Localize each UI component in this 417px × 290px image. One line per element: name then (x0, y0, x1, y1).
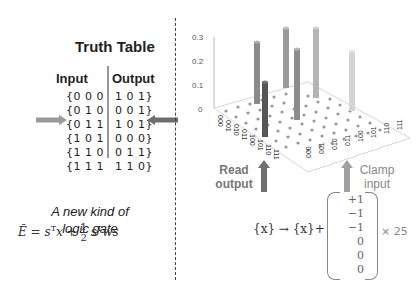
table-row: {1 0 1 0 0 0} (66, 132, 156, 146)
vector-entry: 0 (336, 235, 364, 249)
row-output: 0 1 1} (115, 146, 153, 159)
svg-text:0.2: 0.2 (192, 57, 204, 66)
clamp-vector: +1 −1 −1 0 0 0 (336, 193, 364, 277)
svg-text:110: 110 (383, 123, 390, 134)
input-arrow-icon (36, 115, 68, 125)
svg-text:010: 010 (331, 138, 338, 150)
row-output: 1 0 1} (115, 90, 153, 103)
svg-text:011: 011 (344, 135, 351, 146)
read-label-line-1: Read (212, 163, 256, 177)
svg-text:111: 111 (273, 149, 280, 160)
svg-text:101: 101 (257, 139, 264, 151)
panel-separator (175, 18, 176, 280)
clamp-update-equation: {x} → {x}+ (253, 222, 325, 236)
multiplier: × 25 (381, 225, 408, 238)
vector-entry: +1 (336, 193, 364, 207)
row-input: {0 1 0 (66, 104, 104, 117)
table-row: {1 1 0 0 1 1} (66, 146, 156, 160)
svg-text:101: 101 (370, 126, 377, 138)
svg-text:0: 0 (198, 105, 203, 114)
caption-line-1: A new kind of (40, 203, 140, 220)
svg-text:000: 000 (217, 115, 224, 127)
svg-text:001: 001 (225, 120, 232, 132)
vector-entry: −1 (336, 207, 364, 221)
clamp-input-label: Clamp input (354, 163, 400, 191)
row-input: {0 1 1 (66, 118, 104, 131)
svg-text:100: 100 (249, 134, 256, 146)
svg-text:100: 100 (357, 130, 364, 142)
table-row: {0 0 0 1 0 1} (66, 90, 156, 104)
row-output: 0 0 0} (115, 132, 153, 145)
output-arrow-icon (146, 115, 178, 125)
svg-text:011: 011 (241, 129, 248, 140)
svg-text:110: 110 (265, 144, 272, 155)
svg-text:010: 010 (233, 124, 240, 136)
energy-equation: Ẽ = sTx + 12 sTws (18, 222, 119, 243)
read-label-line-2: output (212, 177, 256, 191)
output-header: Output (112, 71, 155, 86)
row-input: {1 1 1 (66, 160, 104, 173)
row-input: {0 0 0 (66, 90, 104, 103)
row-input: {1 0 1 (66, 132, 104, 145)
clamp-label-line-2: input (354, 177, 400, 191)
svg-text:000: 000 (305, 146, 312, 158)
vector-entry: −1 (336, 221, 364, 235)
table-row: {1 1 1 1 1 0} (66, 160, 156, 174)
read-output-arrow-icon (258, 160, 270, 192)
svg-text:0.3: 0.3 (192, 33, 204, 42)
svg-text:0.1: 0.1 (192, 81, 204, 90)
svg-text:001: 001 (318, 142, 325, 154)
table-row-highlighted: {0 1 1 1 0 1} (66, 118, 156, 132)
table-row: {0 1 0 0 0 1} (66, 104, 156, 118)
probability-3d-bar-chart: 0.3 0.2 0.1 0 000 001 010 011 100 101 11… (178, 20, 417, 185)
row-input: {1 1 0 (66, 146, 104, 159)
svg-text:111: 111 (396, 119, 403, 130)
truth-table-rows: {0 0 0 1 0 1} {0 1 0 0 0 1} {0 1 1 1 0 1… (66, 90, 156, 174)
vector-entry: 0 (336, 249, 364, 263)
clamp-label-line-1: Clamp (354, 163, 400, 177)
read-output-label: Read output (212, 163, 256, 191)
input-header: Input (56, 71, 88, 86)
vector-right-brace (365, 192, 378, 280)
row-output: 1 1 0} (115, 160, 153, 173)
vector-entry: 0 (336, 263, 364, 277)
truth-table-title: Truth Table (75, 38, 155, 55)
clamp-input-arrow-icon (341, 160, 353, 192)
